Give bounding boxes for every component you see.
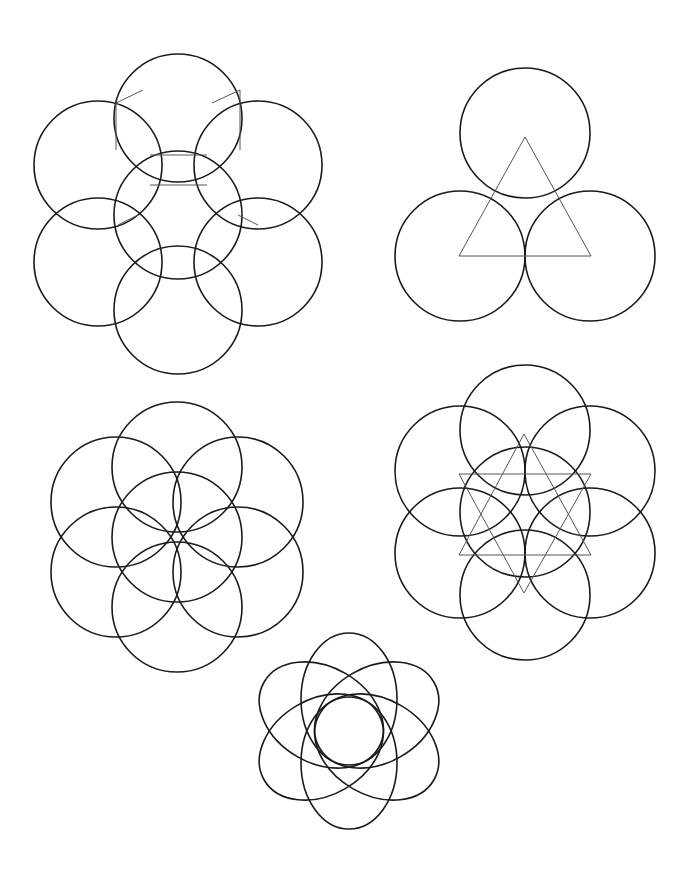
page-background <box>0 0 696 879</box>
geometry-sheet <box>0 0 696 879</box>
